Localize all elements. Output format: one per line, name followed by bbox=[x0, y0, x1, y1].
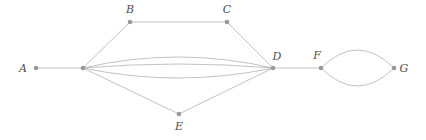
graph-node-d[interactable] bbox=[271, 66, 276, 71]
graph-node-f[interactable] bbox=[319, 66, 324, 71]
graph-canvas: ABCDEFG bbox=[0, 0, 426, 140]
graph-diagram: ABCDEFG bbox=[0, 0, 426, 140]
graph-edge bbox=[83, 64, 273, 68]
graph-edge bbox=[83, 68, 273, 78]
graph-edge bbox=[179, 68, 273, 114]
graph-edge bbox=[321, 68, 394, 86]
graph-edge bbox=[321, 50, 394, 68]
graph-node-b[interactable] bbox=[128, 20, 133, 25]
node-label-b: B bbox=[125, 3, 134, 16]
node-label-e: E bbox=[174, 120, 183, 133]
graph-node-c[interactable] bbox=[225, 20, 230, 25]
node-label-c: C bbox=[223, 3, 232, 16]
node-label-g: G bbox=[400, 62, 409, 75]
graph-edge bbox=[83, 22, 130, 68]
node-label-a: A bbox=[18, 62, 27, 75]
edge-layer bbox=[36, 22, 394, 114]
graph-edge bbox=[83, 68, 179, 114]
node-layer bbox=[34, 20, 397, 117]
graph-node-a[interactable] bbox=[34, 66, 39, 71]
graph-node-hub[interactable] bbox=[81, 66, 86, 71]
node-label-d: D bbox=[272, 50, 282, 63]
graph-node-e[interactable] bbox=[177, 112, 182, 117]
graph-node-g[interactable] bbox=[392, 66, 397, 71]
node-label-f: F bbox=[312, 49, 321, 62]
